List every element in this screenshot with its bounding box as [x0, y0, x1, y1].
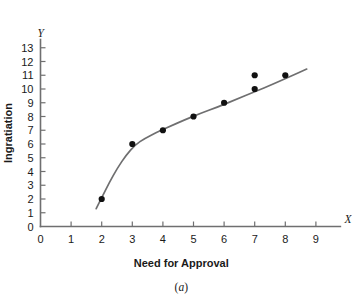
x-axis-ticks: 0123456789 [37, 222, 319, 245]
y-tick-label: 3 [27, 179, 33, 191]
x-tick-label: 0 [37, 233, 43, 245]
y-tick-label: 13 [21, 42, 33, 54]
y-axis-title: Ingratiation [2, 103, 14, 163]
x-tick-label: 5 [190, 233, 196, 245]
y-tick-label: 12 [21, 56, 33, 68]
x-tick-label: 7 [252, 233, 258, 245]
x-axis-letter: X [343, 213, 352, 225]
y-tick-label: 4 [27, 166, 33, 178]
x-tick-label: 1 [68, 233, 74, 245]
scatter-plot: 012345678910111213 0123456789 Y X Ingrat… [0, 0, 352, 305]
y-tick-label: 9 [27, 97, 33, 109]
y-axis-ticks: 012345678910111213 [21, 42, 45, 233]
data-point [252, 72, 258, 78]
data-point [221, 100, 227, 106]
panel-caption: (a) [175, 281, 189, 294]
y-tick-label: 11 [22, 69, 33, 81]
y-axis-letter: Y [38, 27, 46, 39]
y-tick-label: 0 [27, 221, 33, 233]
data-point [252, 86, 258, 92]
x-tick-label: 3 [129, 233, 135, 245]
x-axis-title: Need for Approval [134, 257, 229, 269]
data-point-group [99, 72, 289, 202]
data-point [99, 196, 105, 202]
y-tick-label: 5 [27, 152, 33, 164]
trend-curve [96, 69, 307, 209]
y-tick-label: 7 [27, 124, 33, 136]
axes-group [41, 40, 341, 227]
x-tick-label: 2 [99, 233, 105, 245]
x-tick-label: 6 [221, 233, 227, 245]
y-tick-label: 2 [27, 193, 33, 205]
figure-container: 012345678910111213 0123456789 Y X Ingrat… [0, 0, 352, 305]
x-tick-label: 4 [160, 233, 166, 245]
y-tick-label: 8 [27, 111, 33, 123]
data-point [160, 127, 166, 133]
data-point [129, 141, 135, 147]
y-tick-label: 10 [21, 83, 33, 95]
x-tick-label: 8 [282, 233, 288, 245]
data-point [282, 72, 288, 78]
data-point [190, 113, 196, 119]
y-tick-label: 6 [27, 138, 33, 150]
x-tick-label: 9 [313, 233, 319, 245]
y-tick-label: 1 [27, 207, 33, 219]
